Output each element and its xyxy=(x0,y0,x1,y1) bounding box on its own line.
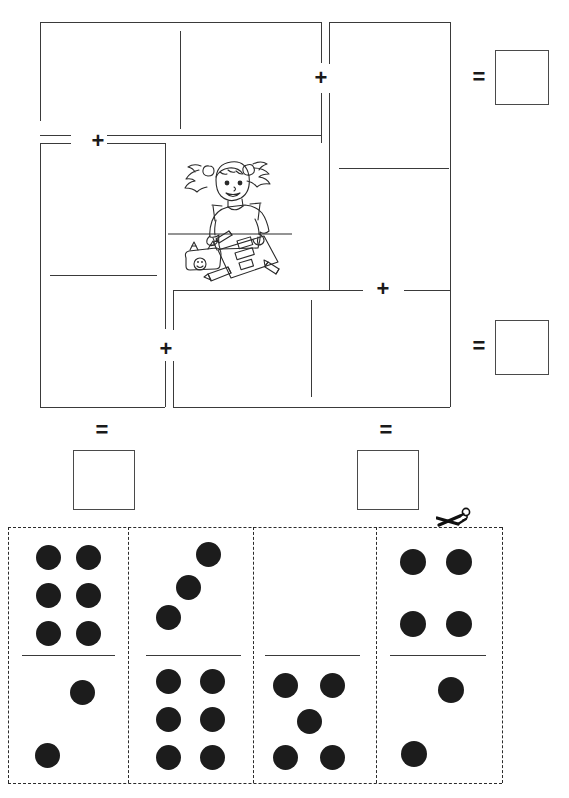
pip xyxy=(400,549,426,575)
pip xyxy=(273,673,298,698)
pip xyxy=(36,545,61,570)
slot-edge-top-right xyxy=(404,290,450,291)
plus-sign-top-left: + xyxy=(89,130,107,152)
slot-edge-left xyxy=(40,143,41,407)
answer-box-bottom-left[interactable] xyxy=(73,450,135,510)
slot-edge-right-upper xyxy=(321,22,322,63)
pip xyxy=(156,605,181,630)
pip xyxy=(176,575,201,600)
answer-box-top-right[interactable] xyxy=(495,50,549,105)
answer-box-middle-right[interactable] xyxy=(495,320,549,375)
domino-half-top xyxy=(376,527,502,655)
slot-edge-top xyxy=(329,22,450,23)
pip xyxy=(156,669,181,694)
domino-card-4[interactable] xyxy=(376,527,502,783)
slot-edge-bottom xyxy=(173,407,450,408)
domino-half-bottom xyxy=(128,655,253,783)
slot-edge-right-lower xyxy=(165,361,166,407)
plus-sign-top-right: + xyxy=(312,67,330,89)
equals-sign-bottom-left: = xyxy=(93,419,111,441)
plus-sign-bottom-left: + xyxy=(157,338,175,360)
slot-edge-left-upper xyxy=(173,290,174,330)
cut-line-bottom xyxy=(8,783,502,784)
slot-divider xyxy=(311,300,312,397)
equals-sign-top: = xyxy=(470,66,488,88)
pip xyxy=(70,680,95,705)
pip xyxy=(438,677,464,703)
domino-cut-out-strip xyxy=(8,527,502,783)
slot-divider xyxy=(180,31,181,129)
worksheet-page: + + + + = = = = xyxy=(0,0,569,798)
slot-edge-bottom-right xyxy=(107,135,321,136)
slot-edge-right xyxy=(450,22,451,290)
equals-sign-bottom-right: = xyxy=(377,419,395,441)
girl-writing-at-desk-illustration xyxy=(168,146,292,294)
slot-edge-left-upper xyxy=(329,22,330,64)
domino-card-3[interactable] xyxy=(253,527,376,783)
slot-edge-top xyxy=(40,22,321,23)
pip xyxy=(446,611,472,637)
pip xyxy=(320,673,345,698)
plus-sign-bottom-right: + xyxy=(374,278,392,300)
slot-edge-right-lower xyxy=(321,93,322,143)
pip xyxy=(200,669,225,694)
pip xyxy=(76,545,101,570)
slot-edge-left-lower xyxy=(329,93,330,290)
pip xyxy=(400,611,426,637)
slot-edge-top-left xyxy=(40,143,71,144)
domino-half-bottom xyxy=(376,655,502,783)
slot-edge-right xyxy=(450,290,451,407)
slot-divider xyxy=(339,168,449,169)
pip xyxy=(196,542,221,567)
pip xyxy=(156,707,181,732)
answer-box-bottom-right[interactable] xyxy=(357,450,419,510)
cut-line-right xyxy=(502,527,503,783)
domino-half-top xyxy=(253,527,376,655)
pip xyxy=(76,583,101,608)
slot-edge-bottom xyxy=(40,407,165,408)
equals-sign-middle: = xyxy=(470,335,488,357)
domino-half-bottom xyxy=(8,655,128,783)
slot-edge-bottom-left xyxy=(40,135,71,136)
slot-edge-left xyxy=(40,22,41,121)
pip xyxy=(200,707,225,732)
pip xyxy=(297,709,322,734)
pip xyxy=(35,743,60,768)
pip xyxy=(156,745,181,770)
slot-edge-left-lower xyxy=(173,361,174,407)
domino-half-top xyxy=(128,527,253,655)
domino-card-2[interactable] xyxy=(128,527,253,783)
pip xyxy=(320,745,345,770)
domino-card-1[interactable] xyxy=(8,527,128,783)
pip xyxy=(273,745,298,770)
slot-divider xyxy=(50,275,157,276)
pip xyxy=(36,583,61,608)
pip xyxy=(200,745,225,770)
pip xyxy=(76,621,101,646)
slot-edge-top-right xyxy=(107,143,165,144)
pip xyxy=(446,549,472,575)
domino-half-bottom xyxy=(253,655,376,783)
pip xyxy=(401,741,427,767)
slot-edge-right-upper xyxy=(165,143,166,329)
pip xyxy=(36,621,61,646)
domino-half-top xyxy=(8,527,128,655)
